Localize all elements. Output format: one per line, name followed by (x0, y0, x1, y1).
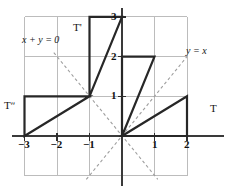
line-y-equals-x (86, 57, 187, 180)
coordinate-plot (0, 0, 233, 191)
x-tick-label-1: 1 (152, 139, 158, 150)
x-tick-label--3: −3 (18, 139, 30, 150)
x-tick-label-2: 2 (184, 139, 190, 150)
y-tick-label-1: 1 (111, 90, 117, 101)
x-tick-label--1: −1 (83, 139, 95, 150)
y-tick-label-3: 3 (111, 11, 117, 22)
figure-container: −3 −2 −1 1 2 1 2 3 T' Tʺ T x + y = 0 y =… (0, 0, 233, 191)
triangle-T-prime-label: T' (73, 22, 82, 33)
reference-lines (54, 53, 187, 180)
triangle-T-double-prime-label: Tʺ (4, 100, 15, 111)
line-y-equals-x-label: y = x (186, 46, 207, 56)
line-x-plus-y-equals-zero-label: x + y = 0 (22, 35, 59, 45)
line-x-plus-y-equals-zero (54, 53, 158, 180)
y-tick-label-2: 2 (111, 51, 117, 62)
x-tick-label--2: −2 (51, 139, 63, 150)
triangle-T-label: T (210, 103, 217, 114)
